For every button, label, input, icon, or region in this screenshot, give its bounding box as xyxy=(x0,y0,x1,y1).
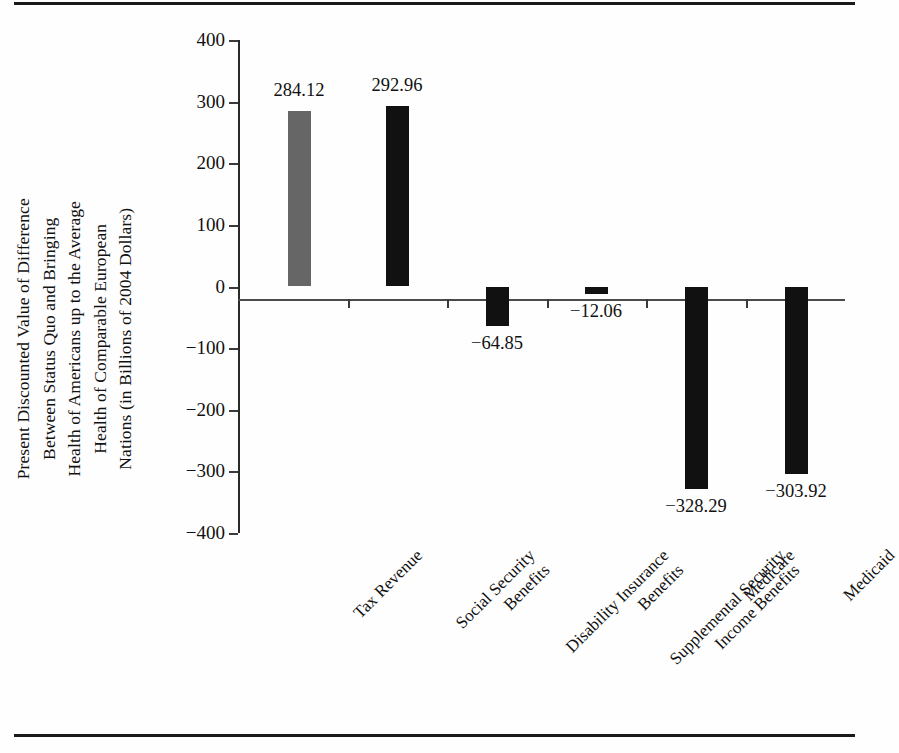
bar-value-label: −328.29 xyxy=(665,496,726,517)
x-axis-tick xyxy=(348,299,350,308)
bar-value-label: 284.12 xyxy=(274,80,325,101)
y-axis-title-line: Present Discounted Value of Difference xyxy=(11,79,37,599)
bar xyxy=(486,287,509,327)
y-axis-title-line: Health of Comparable European xyxy=(88,79,114,599)
x-axis-tick xyxy=(646,299,648,308)
y-axis-tick xyxy=(229,348,238,350)
plot-area: 4003002001000−100−200−300−400 284.12292.… xyxy=(238,40,845,533)
page-rule-top xyxy=(14,2,855,5)
y-axis-title-line: Nations (in Billions of 2004 Dollars) xyxy=(113,79,139,599)
x-axis-category-label: Social SecurityBenefits xyxy=(451,545,554,648)
page-rule-bottom xyxy=(14,734,855,737)
y-axis-tick-label: 200 xyxy=(197,152,226,174)
bar xyxy=(288,111,311,286)
x-axis-tick xyxy=(547,299,549,308)
y-axis-tick xyxy=(229,533,238,535)
bar-value-label: −12.06 xyxy=(570,301,622,322)
x-axis-category-label: Tax Revenue xyxy=(349,545,427,623)
y-axis-tick xyxy=(229,287,238,289)
x-axis-tick xyxy=(746,299,748,308)
y-axis-tick-label: −300 xyxy=(186,460,225,482)
x-axis-tick xyxy=(447,299,449,308)
bar xyxy=(685,287,708,489)
y-axis-tick xyxy=(229,471,238,473)
y-axis-tick xyxy=(229,410,238,412)
y-axis-tick xyxy=(229,40,238,42)
x-axis-category-line: Tax Revenue xyxy=(349,545,427,623)
bar xyxy=(585,287,608,294)
y-axis-tick-label: 400 xyxy=(197,29,226,51)
zero-baseline xyxy=(238,299,845,301)
y-axis-tick-label: −400 xyxy=(186,522,225,544)
bar xyxy=(386,106,409,287)
y-axis-tick-label: 0 xyxy=(216,276,226,298)
y-axis-tick xyxy=(229,102,238,104)
bar xyxy=(785,287,808,474)
y-axis-tick xyxy=(229,163,238,165)
x-axis-category-line: Medicaid xyxy=(839,545,899,605)
y-axis-title: Present Discounted Value of Difference B… xyxy=(11,79,139,599)
y-axis-title-line: Health of Americans up to the Average xyxy=(62,79,88,599)
y-axis-tick-label: 100 xyxy=(197,214,226,236)
x-axis-category-label: Medicaid xyxy=(839,545,899,605)
y-axis-spine xyxy=(238,40,240,533)
y-axis-tick-label: −100 xyxy=(186,337,225,359)
y-axis-tick-label: 300 xyxy=(197,91,226,113)
bar-value-label: 292.96 xyxy=(372,75,423,96)
y-axis-tick xyxy=(229,225,238,227)
y-axis-tick-label: −200 xyxy=(186,399,225,421)
y-axis-title-line: Between Status Quo and Bringing xyxy=(37,79,63,599)
bar-value-label: −303.92 xyxy=(765,481,826,502)
bar-value-label: −64.85 xyxy=(471,333,523,354)
